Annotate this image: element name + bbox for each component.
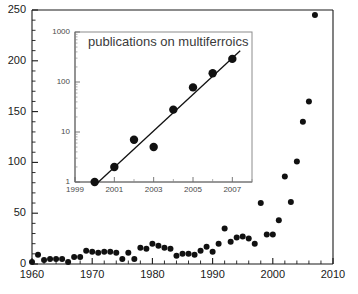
main-data-point xyxy=(288,199,294,205)
main-data-point xyxy=(89,249,95,255)
main-data-point xyxy=(161,245,167,251)
main-data-point xyxy=(204,244,210,250)
main-data-point xyxy=(246,236,252,242)
inset-data-point xyxy=(90,178,98,186)
main-data-point xyxy=(186,251,192,257)
inset-data-point xyxy=(149,143,157,151)
main-data-point xyxy=(77,254,83,260)
main-x-tick-label: 1970 xyxy=(80,268,104,280)
inset-panel: publications on multiferroics 1101001000… xyxy=(52,27,252,193)
main-data-point xyxy=(192,252,198,258)
main-x-tick-label: 2010 xyxy=(321,268,345,280)
main-data-point xyxy=(306,98,312,104)
main-data-point xyxy=(228,239,234,245)
inset-x-tick-label: 2003 xyxy=(145,185,163,194)
inset-x-tick-label: 1999 xyxy=(66,185,84,194)
main-data-point xyxy=(47,256,53,262)
inset-y-tick-label: 100 xyxy=(57,77,71,86)
inset-data-point xyxy=(189,83,197,91)
inset-x-tick-label: 2007 xyxy=(223,185,241,194)
main-data-point xyxy=(41,257,47,263)
main-data-point xyxy=(210,249,216,255)
main-data-point xyxy=(282,174,288,180)
main-data-point xyxy=(95,250,101,256)
main-y-tick-label: 200 xyxy=(8,54,26,66)
main-y-tick-label: 150 xyxy=(8,105,26,117)
main-y-tick-label: 0 xyxy=(20,257,26,269)
main-data-point xyxy=(173,253,179,259)
main-x-tick-label: 1960 xyxy=(20,268,44,280)
inset-data-point xyxy=(208,69,216,77)
main-data-point xyxy=(149,241,155,247)
inset-background-box xyxy=(75,32,252,182)
main-data-point xyxy=(107,249,113,255)
main-data-point xyxy=(119,256,125,262)
main-x-tick-label: 1980 xyxy=(140,268,164,280)
main-data-point xyxy=(59,256,65,262)
main-data-point xyxy=(71,254,77,260)
main-data-point xyxy=(264,232,270,238)
inset-y-tick-label: 1000 xyxy=(52,27,70,36)
main-data-point xyxy=(101,249,107,255)
main-data-point xyxy=(29,259,35,265)
main-data-point xyxy=(131,256,137,262)
inset-data-point xyxy=(110,163,118,171)
chart-canvas: 196019701980199020002010 050100150200250… xyxy=(0,0,358,294)
inset-data-point xyxy=(228,55,236,63)
inset-y-tick-label: 10 xyxy=(61,127,70,136)
main-y-tick-label: 50 xyxy=(14,206,26,218)
inset-data-point xyxy=(169,105,177,113)
main-data-point xyxy=(240,234,246,240)
main-data-point xyxy=(167,246,173,252)
main-data-point xyxy=(113,250,119,256)
main-data-point xyxy=(252,241,258,247)
main-data-point xyxy=(276,217,282,223)
inset-data-point xyxy=(130,136,138,144)
main-data-point xyxy=(143,246,149,252)
main-data-point xyxy=(216,241,222,247)
main-data-point xyxy=(53,256,59,262)
main-data-point xyxy=(300,119,306,125)
publications-per-year-scatter-chart: 196019701980199020002010 050100150200250… xyxy=(0,0,358,294)
main-y-tick-label: 100 xyxy=(8,155,26,167)
main-data-point xyxy=(312,12,318,18)
main-data-point xyxy=(222,225,228,231)
main-data-point xyxy=(198,248,204,254)
main-data-point xyxy=(234,235,240,241)
inset-title: publications on multiferroics xyxy=(88,34,249,49)
main-data-point xyxy=(83,248,89,254)
main-x-tick-label: 2000 xyxy=(261,268,285,280)
main-x-tick-label: 1990 xyxy=(200,268,224,280)
main-data-point xyxy=(155,243,161,249)
main-data-point xyxy=(35,252,41,258)
main-data-point xyxy=(294,158,300,164)
main-data-point xyxy=(137,245,143,251)
inset-x-tick-label: 2005 xyxy=(184,185,202,194)
inset-x-tick-label: 2001 xyxy=(105,185,123,194)
main-data-point xyxy=(270,232,276,238)
main-data-point xyxy=(258,200,264,206)
main-data-point xyxy=(125,250,131,256)
main-y-tick-label: 250 xyxy=(8,3,26,15)
main-data-point xyxy=(180,251,186,257)
main-data-point xyxy=(65,259,71,265)
